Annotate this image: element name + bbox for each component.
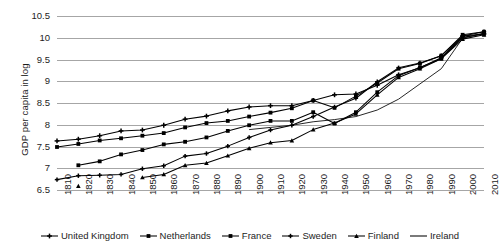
legend-label: United Kingdom [61,231,129,241]
series-line [78,34,484,165]
data-point-marker [269,119,273,123]
data-point-marker [161,123,166,128]
data-point-marker [205,136,209,140]
data-point-marker [141,148,145,152]
data-point-marker [119,129,124,134]
series-line [142,35,484,178]
data-point-marker [98,173,102,177]
legend-item-ireland[interactable]: Ireland [410,231,459,241]
data-point-marker [225,108,230,113]
legend-marker-icon [41,231,58,241]
data-point-marker [162,131,166,135]
data-point-marker [226,129,230,133]
data-point-marker [204,151,208,155]
data-point-marker [183,126,187,130]
gdp-per-capita-line-chart: GDP per capita in log 10.5109.598.587.57… [0,0,500,252]
data-point-marker [332,92,337,97]
data-point-marker [162,164,166,168]
data-point-marker [228,234,232,238]
data-point-marker [204,114,209,119]
data-point-marker [140,167,144,171]
legend-marker-icon [348,231,365,241]
data-point-marker [247,115,251,119]
data-point-marker [183,140,187,144]
data-point-marker [268,128,272,132]
data-point-marker [141,134,145,138]
legend-item-sweden[interactable]: Sweden [282,231,336,241]
data-point-marker [47,234,52,239]
data-point-marker [183,154,187,158]
data-point-marker [205,121,209,125]
chart-legend: United KingdomNetherlandsFranceSwedenFin… [0,231,500,241]
data-point-marker [146,234,150,238]
legend-label: France [242,231,272,241]
data-point-marker [119,152,123,156]
data-point-marker [76,163,80,167]
data-point-marker [76,137,81,142]
legend-label: Finland [368,231,399,241]
data-point-marker [76,174,80,178]
legend-item-netherlands[interactable]: Netherlands [140,231,211,241]
legend-label: Netherlands [160,231,211,241]
legend-item-france[interactable]: France [222,231,272,241]
data-point-marker [55,139,60,144]
plot-area [0,0,500,252]
data-point-marker [55,177,59,181]
data-point-marker [226,144,230,148]
data-point-marker [76,184,81,188]
data-point-marker [97,133,102,138]
legend-label: Ireland [430,231,459,241]
legend-marker-icon [140,231,157,241]
legend-marker-icon [282,231,299,241]
data-point-marker [226,119,230,123]
legend-marker-icon [222,231,239,241]
data-point-marker [76,142,80,146]
data-point-marker [247,135,251,139]
legend-item-united-kingdom[interactable]: United Kingdom [41,231,129,241]
data-point-marker [162,142,166,146]
data-point-marker [247,105,252,110]
data-point-marker [311,114,315,118]
data-point-marker [140,128,145,133]
series-united-kingdom [55,32,487,144]
data-point-marker [247,123,251,127]
legend-marker-icon [410,231,427,241]
data-point-marker [119,136,123,140]
data-point-marker [119,172,123,176]
legend-item-finland[interactable]: Finland [348,231,399,241]
legend-label: Sweden [302,231,336,241]
data-series-layer [55,30,487,189]
data-point-marker [98,159,102,163]
data-point-marker [98,139,102,143]
data-point-marker [311,99,315,103]
data-point-marker [55,145,59,149]
data-point-marker [289,234,293,238]
data-point-marker [311,110,315,114]
data-point-marker [269,111,273,115]
data-point-marker [290,106,294,110]
data-point-marker [290,119,294,123]
data-point-marker [183,117,188,122]
